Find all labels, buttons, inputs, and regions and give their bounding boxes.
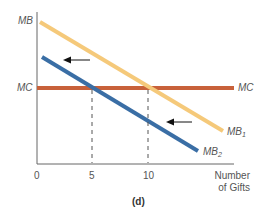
left-arrow-icon bbox=[166, 119, 192, 126]
panel-label: (d) bbox=[132, 197, 145, 207]
mb1-line-label: MB1 bbox=[227, 127, 246, 138]
mb1-line bbox=[40, 22, 223, 131]
mc-line-label: MC bbox=[238, 83, 254, 93]
x-tick-0: 0 bbox=[34, 171, 40, 181]
x-tick-5: 5 bbox=[89, 171, 95, 181]
mc-axis-label: MC bbox=[17, 83, 33, 93]
x-axis-label: Numberof Gifts bbox=[199, 171, 250, 193]
mb2-line-label: MB2 bbox=[203, 147, 222, 158]
mb-axis-label: MB bbox=[18, 16, 33, 26]
x-tick-10: 10 bbox=[143, 171, 154, 181]
left-arrow-icon bbox=[63, 57, 90, 64]
